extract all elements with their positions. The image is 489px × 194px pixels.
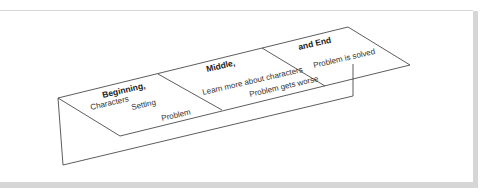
section-middle: Middle, Learn more about characters Prob… xyxy=(201,58,319,99)
section-end-item: Problem is solved xyxy=(312,47,376,70)
section-beginning-item: Problem xyxy=(160,107,191,123)
section-end-title: and End xyxy=(297,35,332,52)
foldable-diagram: Beginning, Characters Setting Problem Mi… xyxy=(0,0,489,194)
section-end: and End Problem is solved xyxy=(297,35,376,70)
section-beginning-item: Setting xyxy=(130,98,156,112)
section-middle-title: Middle, xyxy=(205,58,236,74)
